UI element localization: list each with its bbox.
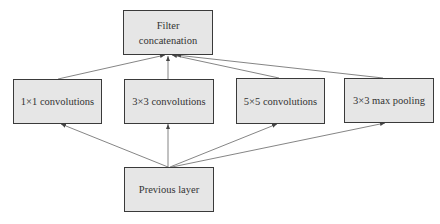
edge-pool3x3-to-concat (176, 55, 383, 78)
node-label: concatenation (139, 33, 197, 48)
node-label: 5×5 convolutions (244, 94, 317, 109)
conv-5x5-node: 5×5 convolutions (236, 78, 325, 124)
edge-prev-to-conv1x1 (61, 124, 168, 167)
edge-conv5x5-to-concat (172, 55, 279, 78)
max-pool-3x3-node: 3×3 max pooling (344, 78, 434, 123)
edge-prev-to-conv5x5 (170, 124, 277, 167)
node-label: 3×3 convolutions (132, 94, 205, 109)
conv-3x3-node: 3×3 convolutions (124, 79, 214, 124)
conv-1x1-node: 1×1 convolutions (13, 79, 102, 124)
node-label: 3×3 max pooling (353, 93, 425, 108)
previous-layer-node: Previous layer (124, 167, 214, 212)
edge-prev-to-pool3x3 (172, 123, 385, 167)
edge-conv1x1-to-concat (58, 55, 165, 79)
node-label: 1×1 convolutions (21, 94, 94, 109)
node-label: Previous layer (139, 182, 199, 197)
filter-concatenation-node: Filter concatenation (123, 10, 213, 55)
node-label: Filter (157, 18, 180, 33)
